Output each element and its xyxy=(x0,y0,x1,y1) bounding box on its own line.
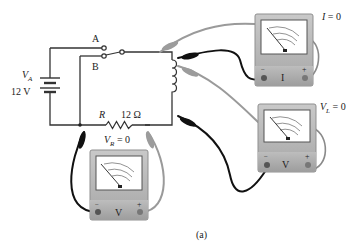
switch-label-b: B xyxy=(92,61,99,72)
minus-terminal[interactable] xyxy=(261,75,267,81)
minus-terminal[interactable] xyxy=(264,162,270,168)
battery-symbol: VA xyxy=(22,69,33,83)
voltmeter-inductor: − + V xyxy=(258,104,316,172)
svg-text:+: + xyxy=(302,65,307,74)
plus-terminal[interactable] xyxy=(305,162,311,168)
inductor-icon xyxy=(172,60,177,100)
svg-text:−: − xyxy=(264,153,268,161)
circuit-diagram: A B VA 12 V R 12 Ω VR = 0 xyxy=(0,0,355,247)
battery-value: 12 V xyxy=(11,86,31,97)
figure-caption: (a) xyxy=(196,229,207,241)
switch-label-a: A xyxy=(92,33,100,44)
resistor-value: 12 Ω xyxy=(121,109,141,120)
minus-terminal[interactable] xyxy=(95,209,101,215)
svg-text:−: − xyxy=(261,66,265,74)
voltmeter-resistor: − + V xyxy=(90,150,148,220)
plus-terminal[interactable] xyxy=(137,209,143,215)
svg-text:+: + xyxy=(137,200,142,209)
ammeter: − + I xyxy=(255,14,313,86)
resistor-voltage-label: VR = 0 xyxy=(104,134,130,148)
resistor-icon xyxy=(106,121,132,129)
meter-face-label: V xyxy=(282,159,290,170)
svg-text:+: + xyxy=(305,152,310,161)
circuit-wires xyxy=(50,48,172,125)
inductor-voltage-label: VL = 0 xyxy=(320,101,346,115)
svg-text:−: − xyxy=(95,201,99,209)
meter-face-label: I xyxy=(281,72,284,83)
junction-dot xyxy=(78,123,82,127)
current-label: I = 0 xyxy=(321,11,341,22)
plus-terminal[interactable] xyxy=(302,75,308,81)
resistor-symbol: R xyxy=(98,109,105,120)
meter-face-label: V xyxy=(115,207,123,218)
battery-icon xyxy=(40,78,60,92)
switch-icon[interactable] xyxy=(102,46,124,58)
